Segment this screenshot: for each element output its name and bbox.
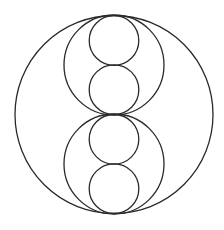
circle-small-3 <box>89 115 139 165</box>
circle-small-1 <box>89 16 139 66</box>
nested-circles-diagram <box>0 0 224 230</box>
circle-small-4 <box>89 164 139 214</box>
circle-small-2 <box>89 65 139 115</box>
